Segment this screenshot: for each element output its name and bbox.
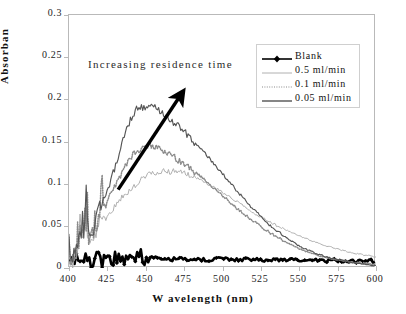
legend-item-05[interactable]: 0.5 ml/min xyxy=(262,62,352,76)
legend-swatch-05 xyxy=(262,64,292,74)
trend-arrow xyxy=(118,97,179,190)
legend-item-01[interactable]: 0.1 ml/min xyxy=(262,76,352,90)
legend-label-01: 0.1 ml/min xyxy=(295,78,346,89)
legend-label-05: 0.5 ml/min xyxy=(295,64,346,75)
legend-swatch-005 xyxy=(262,92,292,102)
y-axis-title: Absorban xyxy=(0,0,10,84)
y-tick-label: 0.15 xyxy=(16,134,62,145)
legend-item-blank[interactable]: Blank xyxy=(262,48,352,62)
legend-label-005: 0.05 ml/min xyxy=(295,92,352,103)
y-tick-label: 0.3 xyxy=(16,7,62,18)
y-tick-label: 0.1 xyxy=(16,176,62,187)
absorbance-spectra-chart: Absorban W avelength (nm) 00.050.10.150.… xyxy=(0,0,406,314)
increasing-residence-time-annotation: Increasing residence time xyxy=(88,58,233,70)
x-tick-mark xyxy=(376,266,377,271)
y-tick-label: 0 xyxy=(16,260,62,271)
legend: Blank 0.5 ml/min 0.1 ml/min xyxy=(256,44,360,108)
x-tick-label: 600 xyxy=(353,273,397,284)
y-tick-label: 0.05 xyxy=(16,218,62,229)
legend-label-blank: Blank xyxy=(295,50,322,61)
x-axis-title: W avelength (nm) xyxy=(0,292,406,304)
legend-swatch-01 xyxy=(262,78,292,88)
legend-item-005[interactable]: 0.05 ml/min xyxy=(262,90,352,104)
y-tick-label: 0.2 xyxy=(16,91,62,102)
y-tick-label: 0.25 xyxy=(16,49,62,60)
legend-swatch-blank xyxy=(262,50,292,60)
